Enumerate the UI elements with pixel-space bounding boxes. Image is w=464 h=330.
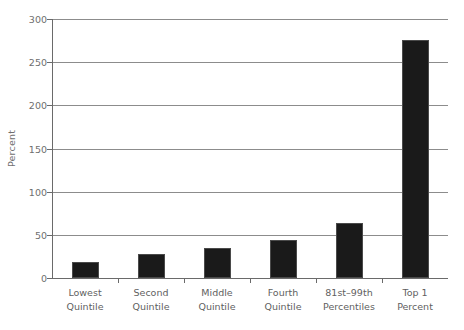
bar — [336, 223, 363, 278]
x-axis-tick-label-line: Percent — [376, 300, 454, 314]
x-axis-tick-mark — [316, 278, 317, 283]
bar — [204, 248, 231, 278]
bars-layer — [52, 19, 448, 278]
x-axis-tick-mark — [184, 278, 185, 283]
y-axis-tick-marks — [0, 19, 52, 278]
x-axis-tick-marks — [52, 278, 448, 284]
x-axis-tick-label-line: Top 1 — [376, 286, 454, 300]
bar — [138, 254, 165, 278]
x-axis-tick-mark — [382, 278, 383, 283]
x-axis-tick-mark — [250, 278, 251, 283]
bar — [270, 240, 297, 278]
x-axis-tick-mark — [118, 278, 119, 283]
x-axis-tick-labels: LowestQuintileSecondQuintileMiddleQuinti… — [52, 286, 448, 326]
bar — [402, 40, 429, 278]
x-axis-tick-label: Top 1Percent — [376, 286, 454, 314]
bar-chart: Percent 050100150200250300 LowestQuintil… — [0, 0, 464, 330]
bar — [72, 262, 99, 278]
